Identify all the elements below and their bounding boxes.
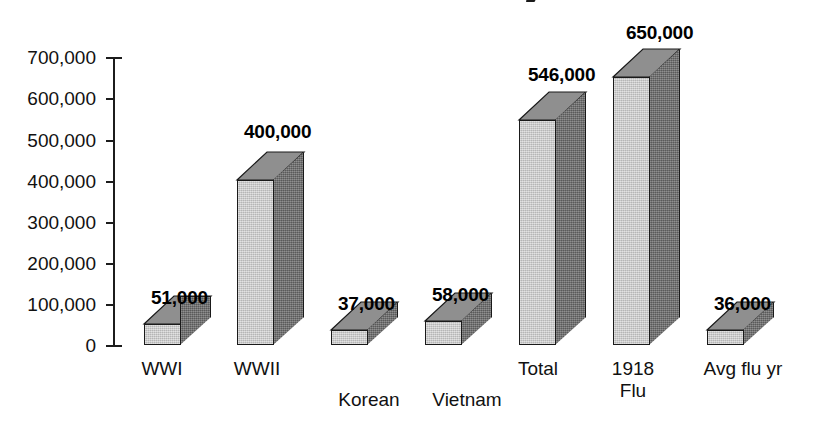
x-label-avg-flu-yr: Avg flu yr xyxy=(678,358,808,379)
bar-total-side-face xyxy=(555,92,586,345)
y-tick-label-500000: 500,000 xyxy=(27,131,96,150)
bar-1918-flu-front-face xyxy=(613,77,650,345)
bar-korean-front-face xyxy=(331,330,368,345)
y-tick-500000 xyxy=(106,140,115,142)
x-label-wwi: WWI xyxy=(122,358,202,379)
y-tick-label-400000: 400,000 xyxy=(27,172,96,191)
data-label-avg-flu-yr: 36,000 xyxy=(714,294,771,313)
bar-wwii-side-face xyxy=(273,152,304,345)
y-tick-label-0: 0 xyxy=(85,336,96,355)
bar-total-front-face xyxy=(519,120,556,345)
data-label-korean: 37,000 xyxy=(338,294,395,313)
y-tick-700000 xyxy=(106,57,115,59)
y-tick-400000 xyxy=(106,181,115,183)
data-label-1918-flu: 650,000 xyxy=(626,23,693,42)
x-label-korean: Korean xyxy=(319,389,419,410)
x-label-wwii: WWII xyxy=(214,358,300,379)
bar-1918-flu-side-face xyxy=(649,49,680,345)
bar-avg-flu-yr-front-face xyxy=(707,330,744,345)
bar-wwi-front-face xyxy=(144,324,181,345)
x-label-1918-flu-line1: 1918 xyxy=(593,358,673,379)
bar-wwii-front-face xyxy=(237,180,274,345)
data-label-wwi: 51,000 xyxy=(151,288,208,307)
clipped-title-mark xyxy=(526,0,537,2)
data-label-total: 546,000 xyxy=(528,65,595,84)
data-label-vietnam: 58,000 xyxy=(432,285,489,304)
bar-vietnam-front-face xyxy=(425,321,462,345)
bar-chart: 700,000 600,000 500,000 400,000 300,000 … xyxy=(0,0,831,435)
y-tick-label-700000: 700,000 xyxy=(27,48,96,67)
y-tick-label-600000: 600,000 xyxy=(27,89,96,108)
y-tick-100000 xyxy=(106,304,115,306)
x-label-1918-flu-line2: Flu xyxy=(593,380,673,401)
y-tick-200000 xyxy=(106,263,115,265)
y-tick-0 xyxy=(106,345,115,347)
y-tick-label-100000: 100,000 xyxy=(27,295,96,314)
y-tick-label-200000: 200,000 xyxy=(27,254,96,273)
data-label-wwii: 400,000 xyxy=(244,122,311,141)
x-label-vietnam: Vietnam xyxy=(412,389,522,410)
y-tick-label-300000: 300,000 xyxy=(27,213,96,232)
y-tick-600000 xyxy=(106,98,115,100)
y-tick-300000 xyxy=(106,222,115,224)
x-label-total: Total xyxy=(497,358,579,379)
